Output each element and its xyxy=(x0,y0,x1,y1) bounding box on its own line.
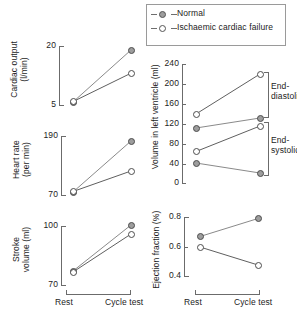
data-point xyxy=(128,168,135,175)
y-tick-label: 0.8 xyxy=(148,212,181,221)
y-tick-label: 120 xyxy=(148,119,179,128)
data-point xyxy=(70,98,77,105)
bracket-end-systolic xyxy=(264,122,269,176)
data-point xyxy=(257,115,264,122)
y-tick-label: 80 xyxy=(148,139,179,148)
data-point xyxy=(128,222,135,229)
legend-label-normal: Normal xyxy=(177,8,205,18)
panel-volume-in-left-ventricle: Volume in left ventricle (ml) 240 200 16… xyxy=(140,52,297,194)
data-point xyxy=(257,71,264,78)
data-point xyxy=(128,47,135,54)
series-lines-cardiac-output xyxy=(59,46,137,106)
legend: Normal Ischaemic cardiac failure xyxy=(146,4,286,46)
data-point xyxy=(257,170,264,177)
bracket-end-diastolic xyxy=(264,72,269,118)
x-axis-right-column xyxy=(195,294,260,295)
y-tick-label: 0.6 xyxy=(148,242,181,251)
panel-cardiac-output: Cardiac output (l/min) 20 5 xyxy=(0,38,140,120)
y-tick-label-stroke-volume-top: 100 xyxy=(28,221,58,230)
y-tick-label: 200 xyxy=(148,79,179,88)
legend-item-ischaemic: Ischaemic cardiac failure xyxy=(151,22,281,34)
legend-item-normal: Normal xyxy=(151,8,281,20)
panel-ejection-fraction: Ejection fraction (%) 0.8 0.6 0.4 xyxy=(140,205,297,315)
data-point xyxy=(193,160,200,167)
data-point xyxy=(197,233,204,240)
data-point xyxy=(255,262,262,269)
annotation-end-diastolic: End- diastolic xyxy=(271,82,297,101)
data-point xyxy=(128,70,135,77)
chart-figure: Normal Ischaemic cardiac failure Cardiac… xyxy=(0,0,297,320)
data-point xyxy=(197,244,204,251)
panel-stroke-volume: Stroke volume (ml) 100 70 Rest Cycle tes… xyxy=(0,218,140,313)
x-tick-label-rest-left: Rest xyxy=(55,297,73,307)
series-lines-stroke-volume xyxy=(61,226,137,286)
data-point xyxy=(257,123,264,130)
axis-label-cardiac-output: Cardiac output (l/min) xyxy=(10,33,29,107)
y-tick-label: 0.4 xyxy=(148,271,181,280)
annotation-end-systolic: End- systolic xyxy=(271,136,297,155)
series-lines-heart-rate xyxy=(61,136,137,196)
y-tick-label-cardiac-output-top: 20 xyxy=(30,41,56,50)
y-tick-label: 0 xyxy=(148,178,179,187)
data-point xyxy=(193,111,200,118)
panel-heart-rate: Heart rate (per min) 190 70 xyxy=(0,128,140,210)
data-point xyxy=(128,138,135,145)
data-point xyxy=(193,148,200,155)
data-point xyxy=(255,215,262,222)
y-tick-label-heart-rate-top: 190 xyxy=(28,131,58,140)
filled-circle-marker-icon xyxy=(151,9,177,20)
x-tick-label-cycle-test-right: Cycle test xyxy=(234,297,272,307)
y-tick-label-heart-rate-bottom: 70 xyxy=(28,190,58,199)
y-tick-label-cardiac-output-bottom: 5 xyxy=(30,100,56,109)
plot-area-ejection-fraction xyxy=(184,217,280,277)
open-circle-marker-icon xyxy=(151,23,177,34)
legend-label-ischaemic: Ischaemic cardiac failure xyxy=(177,22,273,32)
y-tick-label-stroke-volume-bottom: 70 xyxy=(28,280,58,289)
data-point xyxy=(70,269,77,276)
x-tick-label-cycle-test-left: Cycle test xyxy=(105,297,143,307)
y-tick-label: 240 xyxy=(148,59,179,68)
y-tick-label: 160 xyxy=(148,99,179,108)
data-point xyxy=(70,188,77,195)
plot-area-stroke-volume xyxy=(61,226,137,286)
plot-area-cardiac-output xyxy=(59,46,137,106)
y-tick-label: 40 xyxy=(148,159,179,168)
data-point xyxy=(193,125,200,132)
plot-area-heart-rate xyxy=(61,136,137,196)
data-point xyxy=(128,231,135,238)
x-tick-label-rest-right: Rest xyxy=(184,297,202,307)
x-axis-left-column xyxy=(66,294,131,295)
